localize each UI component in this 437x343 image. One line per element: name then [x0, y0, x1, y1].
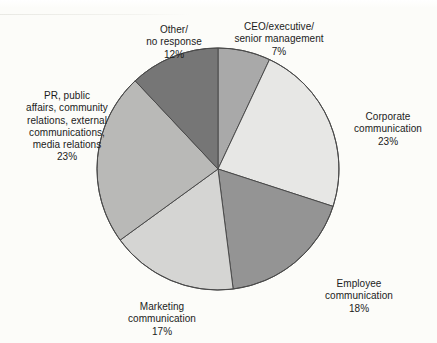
chart-page: CEO/executive/ senior management 7% Othe…	[0, 0, 437, 343]
slice-label-ceo: CEO/executive/ senior management 7%	[213, 9, 345, 70]
slice-label-corporate-percent: 23%	[340, 136, 436, 148]
slice-label-employee-text: Employee communication	[325, 278, 393, 301]
slice-label-pr-percent: 23%	[6, 151, 128, 163]
slice-label-other-text: Other/ no response	[146, 24, 202, 47]
slice-label-corporate-text: Corporate communication	[354, 111, 422, 134]
pie-slice-group	[97, 48, 339, 290]
slice-label-pr: PR, public affairs, community relations,…	[6, 78, 128, 176]
slice-label-marketing: Marketing communication 17%	[104, 289, 220, 343]
slice-label-pr-text: PR, public affairs, community relations,…	[26, 90, 108, 150]
slice-label-employee: Employee communication 18%	[303, 266, 415, 327]
slice-label-corporate: Corporate communication 23%	[340, 99, 436, 160]
slice-label-ceo-text: CEO/executive/ senior management	[234, 21, 323, 44]
slice-label-ceo-percent: 7%	[213, 46, 345, 58]
slice-label-marketing-text: Marketing communication	[128, 301, 196, 324]
slice-label-other-percent: 12%	[126, 49, 222, 61]
slice-label-other: Other/ no response 12%	[126, 12, 222, 73]
slice-label-marketing-percent: 17%	[104, 326, 220, 338]
slice-label-employee-percent: 18%	[303, 303, 415, 315]
